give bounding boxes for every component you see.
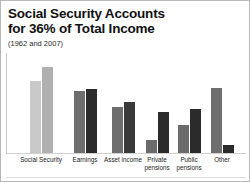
- bar-social-security-1962: [30, 81, 41, 153]
- bar-earnings-2007: [86, 89, 97, 153]
- bar-asset-income-2007: [124, 102, 135, 153]
- chart-figure: Social Security Accounts for 36% of Tota…: [0, 0, 250, 182]
- bar-public-pensions-1962: [178, 125, 189, 153]
- bar-social-security-2007: [42, 67, 53, 153]
- bottom-rule: [6, 177, 246, 178]
- y-axis-line: [6, 53, 7, 153]
- chart-subtitle: (1962 and 2007): [8, 39, 238, 48]
- bar-public-pensions-2007: [190, 109, 201, 153]
- bar-earnings-1962: [74, 91, 85, 153]
- bar-other-2007: [223, 145, 234, 153]
- bar-asset-income-1962: [112, 107, 123, 153]
- x-axis-label-other: Other: [196, 156, 248, 164]
- bar-other-1962: [211, 88, 222, 153]
- bar-private-pensions-1962: [146, 140, 157, 153]
- title-block: Social Security Accounts for 36% of Tota…: [8, 6, 238, 48]
- x-axis-labels: Social SecurityEarningsAsset incomePriva…: [6, 156, 246, 178]
- page-title: Social Security Accounts for 36% of Tota…: [8, 6, 238, 36]
- x-axis-line: [6, 153, 246, 154]
- plot-area: [6, 53, 246, 153]
- bar-private-pensions-2007: [158, 112, 169, 153]
